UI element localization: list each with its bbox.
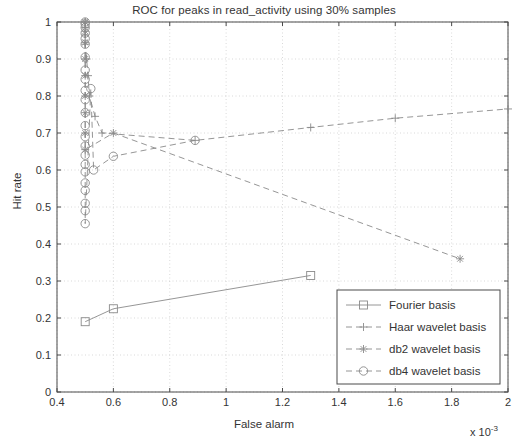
legend-label: db4 wavelet basis xyxy=(389,365,481,377)
data-point-asterisk xyxy=(360,345,368,353)
svg-text:0.6: 0.6 xyxy=(36,164,51,176)
figure-container: ROC for peaks in read_activity using 30%… xyxy=(0,0,528,445)
svg-text:0.7: 0.7 xyxy=(36,127,51,139)
data-point-plus xyxy=(98,129,106,137)
svg-text:1.6: 1.6 xyxy=(388,396,403,408)
multiplier-base: x 10 xyxy=(470,426,491,438)
data-series xyxy=(81,18,512,326)
svg-text:1.8: 1.8 xyxy=(444,396,459,408)
legend-label: db2 wavelet basis xyxy=(389,343,481,355)
data-point-square xyxy=(81,318,89,326)
svg-text:0: 0 xyxy=(45,386,51,398)
series-db2-wavelet-basis xyxy=(81,18,464,263)
chart-legend: Fourier basisHaar wavelet basisdb2 wavel… xyxy=(337,290,500,384)
data-point-plus xyxy=(307,123,315,131)
svg-text:0.5: 0.5 xyxy=(36,201,51,213)
data-point-plus xyxy=(91,112,99,120)
y-axis-label: Hit rate xyxy=(11,146,23,236)
data-point-asterisk xyxy=(109,129,117,137)
svg-text:1: 1 xyxy=(45,16,51,28)
svg-text:0.2: 0.2 xyxy=(36,312,51,324)
legend-item-fourier-basis[interactable]: Fourier basis xyxy=(346,299,456,311)
data-point-asterisk xyxy=(456,255,464,263)
svg-text:0.4: 0.4 xyxy=(36,238,51,250)
svg-text:0.6: 0.6 xyxy=(106,396,121,408)
roc-chart: 0.40.60.811.21.41.61.8200.10.20.30.40.50… xyxy=(0,0,528,445)
svg-text:0.8: 0.8 xyxy=(162,396,177,408)
x-axis-label: False alarm xyxy=(0,418,528,430)
series-db4-wavelet-basis xyxy=(81,18,199,228)
series-fourier-basis xyxy=(81,271,315,325)
svg-text:0.1: 0.1 xyxy=(36,349,51,361)
data-point-plus xyxy=(391,114,399,122)
multiplier-exponent: -3 xyxy=(491,424,498,433)
series-haar-wavelet-basis xyxy=(81,18,512,144)
x-axis-multiplier: x 10-3 xyxy=(470,424,498,438)
svg-text:0.9: 0.9 xyxy=(36,53,51,65)
svg-text:0.3: 0.3 xyxy=(36,275,51,287)
data-point-plus xyxy=(504,105,512,113)
svg-text:1.2: 1.2 xyxy=(275,396,290,408)
legend-label: Haar wavelet basis xyxy=(389,321,486,333)
svg-text:0.8: 0.8 xyxy=(36,90,51,102)
svg-text:0.4: 0.4 xyxy=(49,396,64,408)
legend-label: Fourier basis xyxy=(389,299,456,311)
svg-text:1: 1 xyxy=(223,396,229,408)
svg-text:1.4: 1.4 xyxy=(331,396,346,408)
svg-text:2: 2 xyxy=(505,396,511,408)
